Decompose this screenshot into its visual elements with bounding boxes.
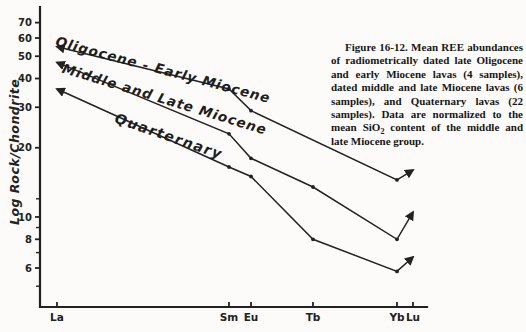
data-point-series-1 (395, 237, 399, 241)
x-tick-label-Tb: Tb (306, 311, 321, 323)
y-tick-label-50: 50 (18, 51, 32, 62)
caption-text: Figure 16-12. Mean REE abundances of rad… (331, 41, 523, 133)
x-tick-label-Sm: Sm (220, 311, 239, 323)
x-tick-label-Eu: Eu (244, 311, 259, 323)
data-point-series-2 (227, 165, 231, 169)
data-point-series-0 (395, 178, 399, 182)
data-point-series-0 (249, 109, 253, 113)
data-point-series-1 (311, 185, 315, 189)
y-axis-title: Log Rock/Chondrite (7, 81, 23, 225)
data-point-series-1 (227, 132, 231, 136)
data-point-series-2 (395, 270, 399, 274)
x-tick-label-La: La (50, 311, 64, 323)
x-tick-label-Yb: Yb (388, 311, 405, 323)
x-tick-label-Lu: Lu (406, 311, 420, 323)
y-tick-label-8: 8 (25, 234, 32, 245)
scanned-figure-page: 7060504030201086LaSmEuTbYbLu Log Rock/Ch… (0, 0, 526, 332)
y-tick-label-60: 60 (18, 33, 32, 44)
figure-caption: Figure 16-12. Mean REE abundances of rad… (331, 41, 523, 148)
y-tick-label-70: 70 (18, 17, 32, 28)
data-point-series-1 (249, 156, 253, 160)
data-point-series-2 (249, 175, 253, 179)
data-point-series-2 (311, 237, 315, 241)
y-tick-label-6: 6 (25, 263, 32, 274)
